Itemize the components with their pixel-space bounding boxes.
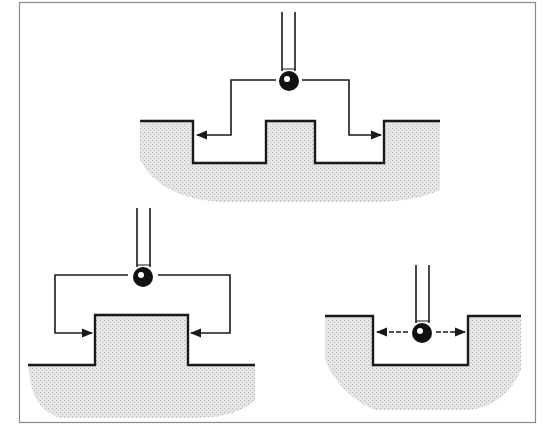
workpiece-boss-fill: [28, 315, 255, 418]
probe-top: [279, 12, 299, 91]
panel-top-stepped-groove: [140, 12, 440, 202]
probe-bottom-left: [133, 208, 153, 287]
workpiece-top-fill: [140, 121, 440, 202]
panel-bottom-left-boss: [28, 208, 255, 418]
probe-bottom-right: [412, 265, 432, 343]
touch-path-left: [197, 80, 276, 135]
panel-bottom-right-slot: [325, 265, 521, 410]
probe-measurement-diagram: [0, 0, 545, 436]
